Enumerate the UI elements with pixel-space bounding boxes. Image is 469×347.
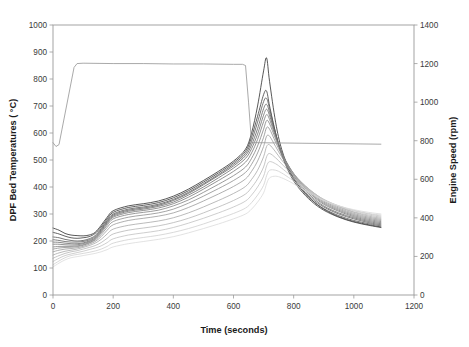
y-tick-label: 300 (33, 210, 47, 219)
dpf-temperature-engine-speed-chart: 0100200300400500600700800900100002004006… (0, 0, 469, 347)
y-tick-label: 100 (33, 264, 47, 273)
y2-tick-label: 400 (420, 214, 434, 223)
y-tick-label: 200 (33, 237, 47, 246)
secondary-y-axis-title: Engine Speed (rpm) (448, 117, 458, 204)
y2-tick-label: 200 (420, 252, 434, 261)
y-tick-label: 1000 (29, 21, 48, 30)
y-tick-label: 500 (33, 156, 47, 165)
y-tick-label: 800 (33, 75, 47, 84)
x-tick-label: 600 (227, 302, 241, 311)
x-tick-label: 1000 (345, 302, 364, 311)
x-tick-label: 200 (106, 302, 120, 311)
y-tick-label: 400 (33, 183, 47, 192)
y-tick-label: 600 (33, 129, 47, 138)
y-tick-label: 700 (33, 102, 47, 111)
y2-tick-label: 800 (420, 137, 434, 146)
y-axis-title: DPF Bed Temperatures ( °C) (8, 99, 18, 221)
y2-tick-label: 1200 (420, 60, 439, 69)
y2-tick-label: 600 (420, 175, 434, 184)
x-tick-label: 0 (51, 302, 56, 311)
y2-tick-label: 0 (420, 291, 425, 300)
y2-tick-label: 1000 (420, 98, 439, 107)
x-tick-label: 400 (166, 302, 180, 311)
chart-container: 0100200300400500600700800900100002004006… (0, 0, 469, 347)
x-axis-title: Time (seconds) (200, 325, 267, 335)
y-tick-label: 0 (42, 291, 47, 300)
x-tick-label: 1200 (405, 302, 424, 311)
y-tick-label: 900 (33, 48, 47, 57)
y2-tick-label: 1400 (420, 21, 439, 30)
x-tick-label: 800 (287, 302, 301, 311)
